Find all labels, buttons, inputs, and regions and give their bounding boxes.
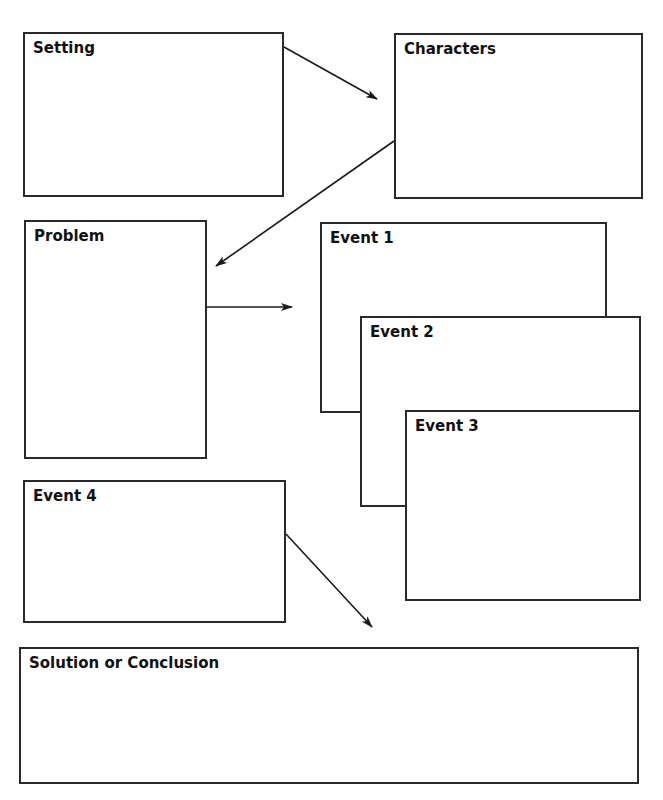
event1-label: Event 1 xyxy=(330,229,394,247)
problem-label: Problem xyxy=(34,227,104,245)
arrow-setting-to-characters xyxy=(284,47,377,99)
event3-box[interactable]: Event 3 xyxy=(405,410,641,601)
setting-box[interactable]: Setting xyxy=(23,32,284,197)
solution-label: Solution or Conclusion xyxy=(29,654,219,672)
event3-label: Event 3 xyxy=(415,417,479,435)
event4-label: Event 4 xyxy=(33,487,97,505)
characters-label: Characters xyxy=(404,40,496,58)
setting-label: Setting xyxy=(33,39,95,57)
arrow-event4-to-solution xyxy=(286,534,372,627)
problem-box[interactable]: Problem xyxy=(24,220,207,459)
solution-box[interactable]: Solution or Conclusion xyxy=(19,647,639,784)
characters-box[interactable]: Characters xyxy=(394,33,643,199)
event2-label: Event 2 xyxy=(370,323,434,341)
event4-box[interactable]: Event 4 xyxy=(23,480,286,623)
